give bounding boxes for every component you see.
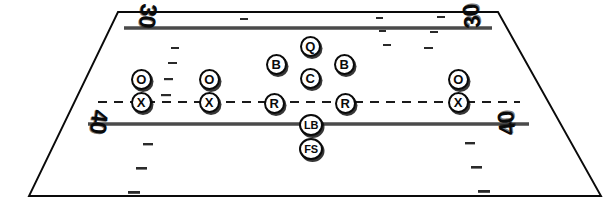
player-o-left-outer[interactable]: O [131,69,152,90]
player-fs-freesafety[interactable]: FS [299,138,323,160]
player-x-left-inner[interactable]: X [199,92,220,113]
player-lb-linebacker[interactable]: LB [299,114,323,136]
yard-number-30-left: 30 [133,2,162,28]
yard-number-40-left: 40 [84,108,113,134]
player-o-right[interactable]: O [448,69,469,90]
player-b-left[interactable]: B [266,54,287,75]
player-x-right[interactable]: X [448,92,469,113]
yard-number-40-right: 40 [492,110,521,136]
player-c-center[interactable]: C [300,68,321,89]
player-x-left-outer[interactable]: X [131,92,152,113]
football-field-diagram: 30 30 40 40 OXOXBQCBRRLBFSOX [0,0,616,209]
player-r-left[interactable]: R [264,93,285,114]
player-b-right[interactable]: B [334,54,355,75]
player-o-left-inner[interactable]: O [199,69,220,90]
player-r-right[interactable]: R [335,93,356,114]
field-graphics [0,0,616,209]
player-q-quarterback[interactable]: Q [300,36,321,57]
yard-number-30-right: 30 [457,3,486,29]
